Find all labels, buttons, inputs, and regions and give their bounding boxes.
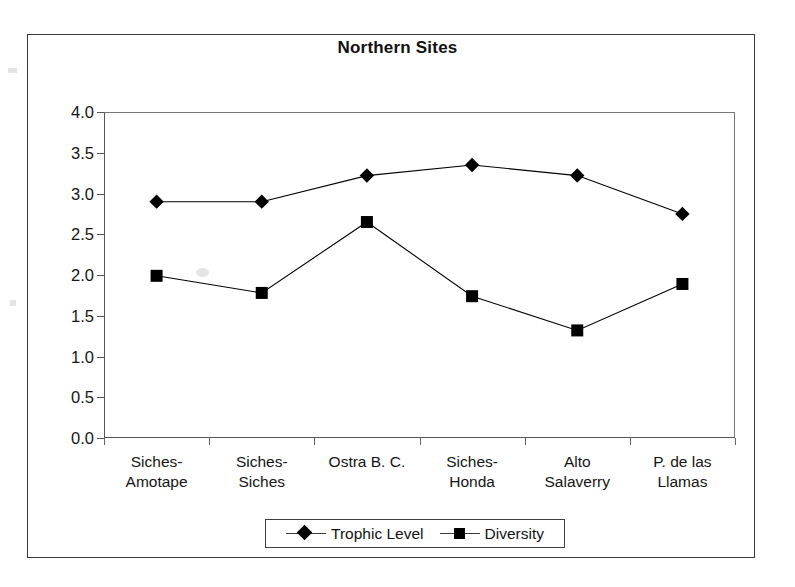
y-tick-label: 3.0 xyxy=(42,184,94,203)
legend-label: Diversity xyxy=(485,525,544,543)
x-tick-mark xyxy=(314,438,315,445)
y-tick-mark xyxy=(97,357,104,358)
x-tick-label-line: Siches- xyxy=(202,452,322,472)
y-tick-label: 2.0 xyxy=(42,266,94,285)
x-tick-label: Siches-Siches xyxy=(202,452,322,492)
legend-label: Trophic Level xyxy=(331,525,423,543)
x-tick-label: Ostra B. C. xyxy=(307,452,427,472)
y-tick-mark xyxy=(97,194,104,195)
x-tick-mark xyxy=(735,438,736,445)
x-tick-label: Siches-Amotape xyxy=(97,452,217,492)
x-tick-label-line: Amotape xyxy=(97,472,217,492)
x-tick-label-line: Siches- xyxy=(412,452,532,472)
y-tick-label: 4.0 xyxy=(42,103,94,122)
x-tick-mark xyxy=(525,438,526,445)
x-tick-mark xyxy=(104,438,105,445)
y-tick-mark xyxy=(97,397,104,398)
y-tick-label: 1.0 xyxy=(42,347,94,366)
x-tick-label-line: Salaverry xyxy=(517,472,637,492)
x-tick-label-line: Siches xyxy=(202,472,322,492)
y-tick-mark xyxy=(97,438,104,439)
scan-speckle xyxy=(8,68,17,73)
y-tick-label: 0.5 xyxy=(42,388,94,407)
x-tick-label: AltoSalaverry xyxy=(517,452,637,492)
x-tick-mark xyxy=(630,438,631,445)
y-tick-label: 0.0 xyxy=(42,429,94,448)
x-tick-label-line: Alto xyxy=(517,452,637,472)
chart-legend: Trophic Level Diversity xyxy=(265,519,565,548)
x-tick-label-line: Ostra B. C. xyxy=(307,452,427,472)
y-tick-label: 1.5 xyxy=(42,306,94,325)
y-tick-mark xyxy=(97,316,104,317)
x-tick-label: P. de lasLlamas xyxy=(622,452,742,492)
plot-area xyxy=(104,112,735,438)
y-tick-mark xyxy=(97,275,104,276)
scan-speckle xyxy=(10,300,16,306)
chart-title: Northern Sites xyxy=(0,38,795,58)
x-tick-label-line: Honda xyxy=(412,472,532,492)
legend-entry-diversity: Diversity xyxy=(440,525,544,543)
x-tick-label-line: P. de las xyxy=(622,452,742,472)
y-tick-label: 3.5 xyxy=(42,143,94,162)
x-tick-label: Siches-Honda xyxy=(412,452,532,492)
y-tick-label: 2.5 xyxy=(42,225,94,244)
y-tick-mark xyxy=(97,153,104,154)
square-marker-icon xyxy=(440,527,480,541)
x-tick-label-line: Llamas xyxy=(622,472,742,492)
y-tick-mark xyxy=(97,234,104,235)
x-tick-mark xyxy=(209,438,210,445)
legend-entry-trophic-level: Trophic Level xyxy=(286,525,423,543)
diamond-marker-icon xyxy=(286,527,326,541)
x-tick-mark xyxy=(420,438,421,445)
y-tick-mark xyxy=(97,112,104,113)
x-tick-label-line: Siches- xyxy=(97,452,217,472)
